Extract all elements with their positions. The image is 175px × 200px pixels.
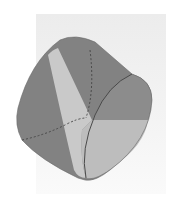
cylinder-figure: [0, 0, 175, 200]
end-face-lower: [82, 120, 149, 178]
